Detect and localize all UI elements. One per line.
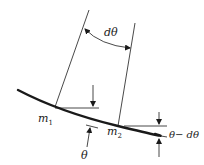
diagram-svg	[0, 0, 204, 165]
normal-line-m1	[55, 10, 89, 107]
label-m1-sub: 1	[48, 119, 52, 127]
normal-line-m2	[118, 23, 135, 126]
label-m2: m2	[107, 126, 122, 140]
label-m1-base: m	[38, 112, 48, 125]
label-theta: θ	[81, 150, 88, 161]
up-arrow-m1	[87, 128, 90, 147]
label-theta-minus-dtheta: θ− dθ	[169, 130, 199, 140]
label-m1: m1	[38, 113, 53, 127]
label-dtheta: dθ	[104, 27, 118, 38]
diagram-canvas: dθ m1 m2 θ θ− dθ	[0, 0, 204, 165]
label-m2-base: m	[107, 125, 117, 138]
tangent-mark-m1	[86, 125, 98, 128]
label-m2-sub: 2	[117, 132, 121, 140]
